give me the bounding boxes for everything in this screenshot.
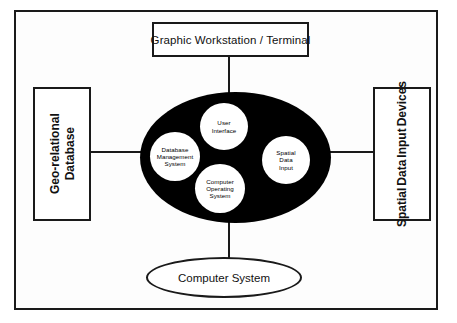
- component-database-management-system[interactable]: Database Management System: [150, 132, 200, 181]
- connector-workstation-to-core: [228, 57, 230, 96]
- component-label-line-3: System: [210, 192, 231, 199]
- node-label: Graphic Workstation / Terminal: [151, 34, 311, 46]
- component-label-line-3: System: [165, 160, 186, 167]
- node-spatial-data-input-devices[interactable]: Spatial Data Input Devices: [373, 87, 431, 221]
- component-label-line-2: Interface: [212, 127, 237, 134]
- node-label-line-2: Database: [62, 127, 77, 180]
- rotated-label-group: Spatial Data Input Devices: [395, 80, 409, 228]
- component-label-line-1: User: [217, 119, 230, 126]
- diagram-canvas: Graphic Workstation / Terminal Geo-relat…: [0, 0, 457, 323]
- component-label-line-1: Spatial: [276, 149, 295, 156]
- component-label-line-3: Input: [279, 164, 293, 171]
- node-geo-relational-database[interactable]: Geo-relational Database: [33, 87, 91, 221]
- component-computer-operating-system[interactable]: Computer Operating System: [195, 164, 245, 213]
- node-label-line-1: Spatial: [395, 187, 409, 228]
- connector-core-to-computer-system: [228, 219, 230, 260]
- node-label-line-2: Data: [395, 159, 409, 187]
- node-graphic-workstation-terminal[interactable]: Graphic Workstation / Terminal: [152, 22, 309, 57]
- component-user-interface[interactable]: User Interface: [200, 103, 248, 150]
- node-label-line-4: Devices: [395, 80, 409, 127]
- component-label-line-2: Data: [279, 156, 292, 163]
- node-computer-system[interactable]: Computer System: [146, 257, 302, 298]
- node-label: Computer System: [178, 272, 270, 284]
- component-label-line-1: Computer: [206, 178, 234, 185]
- node-label-line-3: Input: [395, 127, 409, 158]
- component-label-line-2: Operating: [206, 185, 234, 192]
- component-label-line-1: Database: [162, 146, 189, 153]
- component-spatial-data-input[interactable]: Spatial Data Input: [262, 136, 310, 184]
- node-label-line-1: Geo-relational: [47, 114, 62, 195]
- rotated-label-group: Geo-relational Database: [47, 114, 76, 195]
- component-label-line-2: Management: [157, 153, 194, 160]
